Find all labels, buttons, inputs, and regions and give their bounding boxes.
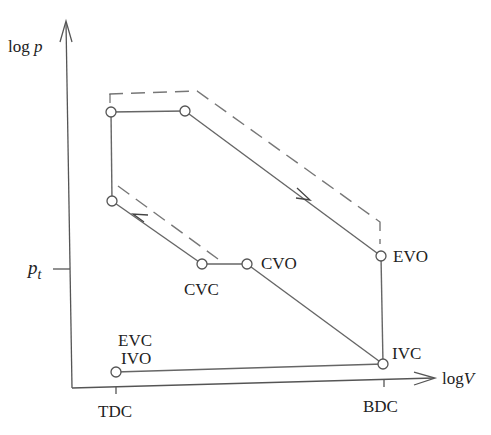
x-axis-label-var: V <box>464 369 474 388</box>
x-axis-label: logV <box>442 370 474 387</box>
y-axis-label-var: p <box>34 37 43 56</box>
point-cvc-icon <box>197 259 207 269</box>
pv-diagram: log p logV pt TDC BDC EVO IVC CVO CVC EV… <box>0 0 491 435</box>
x-axis-label-prefix: log <box>442 369 464 388</box>
bdc-label: BDC <box>363 398 398 415</box>
point-ivo-icon <box>111 367 121 377</box>
y-axis-label: log p <box>8 38 42 55</box>
pt-label-var: p <box>28 257 38 278</box>
point-cvo-icon <box>242 259 252 269</box>
cvc-label: CVC <box>184 281 219 298</box>
evc-label: EVC <box>118 332 152 349</box>
diagram-canvas <box>0 0 491 435</box>
cvo-label: CVO <box>261 255 297 272</box>
y-axis <box>53 21 72 388</box>
pt-label-sub: t <box>38 267 42 282</box>
point-top-right-icon <box>180 106 190 116</box>
dashed-cycle <box>110 91 380 259</box>
ivc-label: IVC <box>392 345 421 362</box>
pt-label: pt <box>28 258 41 282</box>
y-axis-label-prefix: log <box>8 37 34 56</box>
x-axis <box>72 372 435 394</box>
ivo-label: IVO <box>121 350 151 367</box>
point-evo-icon <box>376 251 386 261</box>
point-mid-left-icon <box>107 196 117 206</box>
evo-label: EVO <box>393 248 428 265</box>
point-top-left-icon <box>106 107 116 117</box>
tdc-label: TDC <box>98 403 132 420</box>
point-ivc-icon <box>378 359 388 369</box>
